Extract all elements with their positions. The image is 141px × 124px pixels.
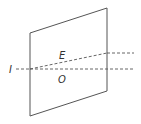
- extraordinary-ray-inside: [30, 53, 107, 69]
- label-incident: I: [9, 64, 12, 75]
- label-ordinary: O: [58, 74, 66, 85]
- birefringence-diagram: I E O: [0, 0, 141, 124]
- label-extraordinary: E: [59, 50, 66, 61]
- diagram: I E O: [0, 0, 141, 124]
- crystal-plate: [30, 8, 107, 116]
